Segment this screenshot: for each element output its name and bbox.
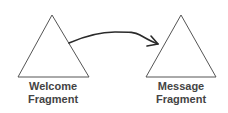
message-fragment-triangle — [146, 15, 216, 77]
welcome-fragment-triangle — [18, 15, 89, 77]
welcome-fragment-label: Welcome Fragment — [8, 80, 98, 106]
message-fragment-label-line2: Fragment — [136, 93, 226, 106]
welcome-fragment-label-line2: Fragment — [8, 93, 98, 106]
message-fragment-label-line1: Message — [136, 80, 226, 93]
welcome-fragment-label-line1: Welcome — [8, 80, 98, 93]
transition-arrow — [69, 32, 158, 44]
message-fragment-label: Message Fragment — [136, 80, 226, 106]
